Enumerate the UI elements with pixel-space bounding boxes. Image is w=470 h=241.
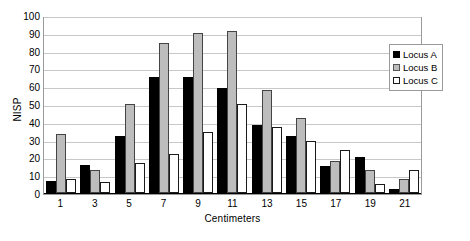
bar (286, 136, 296, 193)
x-axis-tick-label: 7 (146, 198, 180, 212)
bar (56, 134, 66, 193)
bar (262, 90, 272, 193)
bar (80, 165, 90, 193)
bar (149, 77, 159, 193)
bar (193, 33, 203, 193)
x-axis-title: Centimeters (43, 213, 422, 224)
x-axis-tick-labels: 13579111315171921 (43, 198, 422, 212)
x-axis-tick-label: 1 (43, 198, 77, 212)
plot-area (43, 17, 422, 195)
x-axis-tick-label: 11 (215, 198, 249, 212)
legend-swatch-icon (393, 51, 400, 58)
chart-legend: Locus ALocus BLocus C (389, 44, 443, 91)
bar-group (181, 18, 215, 193)
x-axis-baseline (44, 193, 421, 194)
bar-group (318, 18, 352, 193)
y-axis-tick-labels: 0102030405060708090100 (16, 17, 40, 195)
x-axis-tick-label: 21 (388, 198, 422, 212)
legend-item[interactable]: Locus C (393, 74, 438, 87)
bar (340, 150, 350, 193)
bar (409, 170, 419, 193)
bar (375, 184, 385, 193)
bar-group (284, 18, 318, 193)
y-axis-tick-label: 100 (16, 12, 40, 22)
bar-group (147, 18, 181, 193)
bar (306, 141, 316, 193)
bar (296, 118, 306, 193)
y-axis-tick-label: 40 (16, 119, 40, 129)
y-axis-tick-label: 80 (16, 48, 40, 58)
bar (237, 104, 247, 193)
bar (100, 182, 110, 193)
bar-group (113, 18, 147, 193)
bar-group (44, 18, 78, 193)
bar (115, 136, 125, 193)
bar (399, 179, 409, 193)
x-axis-tick-label: 17 (319, 198, 353, 212)
bar (159, 43, 169, 193)
bar-group (250, 18, 284, 193)
bar (135, 163, 145, 193)
bar (203, 132, 213, 193)
x-axis-tick-label: 5 (112, 198, 146, 212)
bar (125, 104, 135, 193)
y-axis-tick-label: 30 (16, 137, 40, 147)
x-axis-tick-label: 3 (77, 198, 111, 212)
legend-item[interactable]: Locus A (393, 48, 438, 61)
bar (66, 179, 76, 193)
bar (355, 157, 365, 193)
bar (217, 88, 227, 193)
x-axis-tick-label: 9 (181, 198, 215, 212)
bar (320, 166, 330, 193)
bar (227, 31, 237, 193)
y-axis-tick-label: 50 (16, 101, 40, 111)
y-axis-tick-label: 90 (16, 30, 40, 40)
y-axis-tick-label: 60 (16, 83, 40, 93)
bar-chart: NISP 0102030405060708090100 135791113151… (0, 0, 470, 241)
bar (46, 181, 56, 193)
bar (90, 170, 100, 193)
bar (252, 125, 262, 193)
bar (330, 161, 340, 193)
bar-groups (44, 18, 421, 193)
bar-group (215, 18, 249, 193)
bar (365, 170, 375, 193)
y-axis-tick-label: 0 (16, 190, 40, 200)
legend-item-label: Locus B (403, 62, 437, 73)
y-axis-tick-label: 70 (16, 65, 40, 75)
bar-group (78, 18, 112, 193)
legend-swatch-icon (393, 77, 400, 84)
y-axis-tick-label: 10 (16, 172, 40, 182)
x-axis-tick-label: 13 (250, 198, 284, 212)
legend-item[interactable]: Locus B (393, 61, 438, 74)
bar (272, 127, 282, 193)
legend-item-label: Locus A (403, 49, 437, 60)
x-axis-tick-label: 19 (353, 198, 387, 212)
bar (183, 77, 193, 193)
bar-group (352, 18, 386, 193)
legend-swatch-icon (393, 64, 400, 71)
bar (169, 154, 179, 193)
legend-item-label: Locus C (403, 75, 438, 86)
x-axis-tick-label: 15 (284, 198, 318, 212)
y-axis-tick-label: 20 (16, 154, 40, 164)
